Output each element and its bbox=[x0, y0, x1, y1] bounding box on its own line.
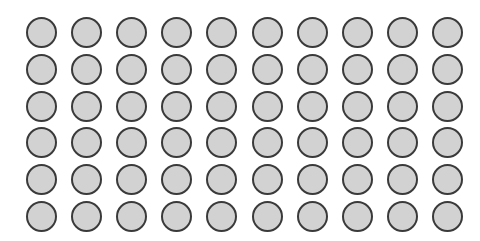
circle-5-1 bbox=[26, 164, 57, 195]
circle-6-9 bbox=[387, 201, 418, 232]
circle-5-4 bbox=[161, 164, 192, 195]
circle-3-6 bbox=[252, 91, 283, 122]
circle-4-3 bbox=[116, 127, 147, 158]
circle-2-4 bbox=[161, 54, 192, 85]
circle-4-2 bbox=[71, 127, 102, 158]
circle-1-8 bbox=[342, 17, 373, 48]
circle-1-6 bbox=[252, 17, 283, 48]
circle-2-1 bbox=[26, 54, 57, 85]
circle-3-3 bbox=[116, 91, 147, 122]
circle-6-5 bbox=[206, 201, 237, 232]
circle-1-5 bbox=[206, 17, 237, 48]
circle-5-7 bbox=[297, 164, 328, 195]
circle-5-8 bbox=[342, 164, 373, 195]
circle-6-7 bbox=[297, 201, 328, 232]
circle-6-1 bbox=[26, 201, 57, 232]
circle-1-10 bbox=[432, 17, 463, 48]
circle-3-7 bbox=[297, 91, 328, 122]
circle-4-6 bbox=[252, 127, 283, 158]
circle-1-2 bbox=[71, 17, 102, 48]
circle-1-3 bbox=[116, 17, 147, 48]
circle-2-2 bbox=[71, 54, 102, 85]
circle-4-8 bbox=[342, 127, 373, 158]
circle-1-1 bbox=[26, 17, 57, 48]
circle-3-4 bbox=[161, 91, 192, 122]
circle-6-8 bbox=[342, 201, 373, 232]
circle-4-7 bbox=[297, 127, 328, 158]
circle-1-4 bbox=[161, 17, 192, 48]
circle-1-7 bbox=[297, 17, 328, 48]
circle-5-6 bbox=[252, 164, 283, 195]
circle-4-5 bbox=[206, 127, 237, 158]
circle-2-7 bbox=[297, 54, 328, 85]
circle-2-5 bbox=[206, 54, 237, 85]
circle-grid bbox=[0, 0, 480, 241]
circle-6-10 bbox=[432, 201, 463, 232]
circle-2-9 bbox=[387, 54, 418, 85]
circle-6-2 bbox=[71, 201, 102, 232]
circle-5-9 bbox=[387, 164, 418, 195]
circle-4-10 bbox=[432, 127, 463, 158]
circle-3-2 bbox=[71, 91, 102, 122]
circle-2-8 bbox=[342, 54, 373, 85]
circle-5-2 bbox=[71, 164, 102, 195]
circle-4-9 bbox=[387, 127, 418, 158]
circle-5-5 bbox=[206, 164, 237, 195]
circle-6-4 bbox=[161, 201, 192, 232]
circle-4-1 bbox=[26, 127, 57, 158]
circle-2-3 bbox=[116, 54, 147, 85]
circle-3-10 bbox=[432, 91, 463, 122]
circle-3-9 bbox=[387, 91, 418, 122]
circle-4-4 bbox=[161, 127, 192, 158]
circle-3-1 bbox=[26, 91, 57, 122]
circle-6-3 bbox=[116, 201, 147, 232]
circle-3-5 bbox=[206, 91, 237, 122]
circle-3-8 bbox=[342, 91, 373, 122]
circle-5-10 bbox=[432, 164, 463, 195]
circle-2-6 bbox=[252, 54, 283, 85]
circle-5-3 bbox=[116, 164, 147, 195]
circle-2-10 bbox=[432, 54, 463, 85]
circle-1-9 bbox=[387, 17, 418, 48]
circle-6-6 bbox=[252, 201, 283, 232]
